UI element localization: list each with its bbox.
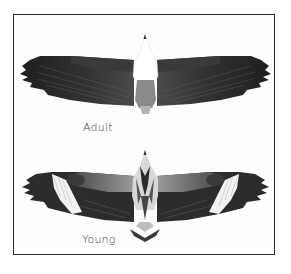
adult-eagle bbox=[20, 34, 271, 114]
young-eagle bbox=[22, 150, 269, 242]
label-adult: Adult bbox=[83, 121, 113, 134]
adult-right-wing bbox=[157, 56, 271, 106]
adult-body bbox=[133, 34, 158, 114]
young-body bbox=[130, 150, 160, 242]
adult-left-wing bbox=[20, 56, 134, 106]
eagle-illustration bbox=[0, 0, 291, 274]
young-right-wing bbox=[157, 172, 269, 222]
label-young: Young bbox=[82, 233, 116, 246]
young-left-wing bbox=[22, 172, 134, 222]
